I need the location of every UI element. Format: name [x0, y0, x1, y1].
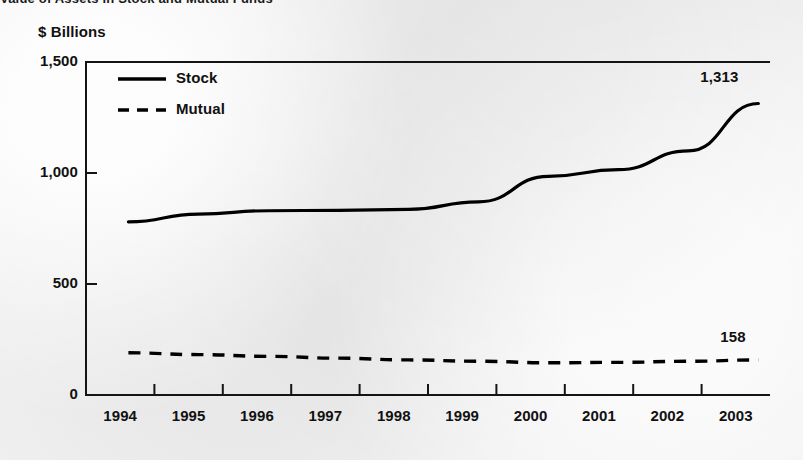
value-label-stock: 1,313 — [700, 68, 738, 85]
y-axis-ticks — [86, 173, 97, 284]
series-line-mutual — [128, 353, 758, 363]
line-chart-plot — [0, 0, 803, 460]
x-axis-ticks — [154, 384, 701, 395]
legend-marks — [118, 79, 166, 110]
series-line-stock — [128, 104, 758, 222]
legend-label-mutual: Mutual — [176, 100, 225, 117]
legend-label-stock: Stock — [176, 69, 217, 86]
value-label-mutual: 158 — [720, 328, 745, 345]
series-lines — [128, 104, 758, 363]
